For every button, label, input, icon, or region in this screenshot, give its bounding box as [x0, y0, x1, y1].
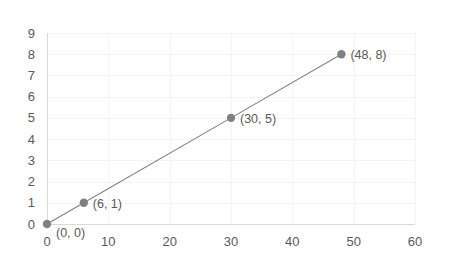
y-tick-label: 1	[28, 195, 35, 210]
y-tick-label: 6	[28, 89, 35, 104]
y-tick-label: 9	[28, 26, 35, 41]
data-point-marker	[337, 50, 345, 58]
data-point-label: (30, 5)	[240, 112, 276, 126]
data-point-label: (0, 0)	[56, 226, 85, 240]
x-tick-label: 0	[43, 234, 50, 249]
x-tick-label: 20	[162, 234, 176, 249]
x-tick-label: 30	[224, 234, 238, 249]
y-tick-label: 7	[28, 68, 35, 83]
data-point-marker	[80, 199, 88, 207]
x-tick-label: 10	[101, 234, 115, 249]
x-tick-label: 40	[285, 234, 299, 249]
y-tick-label: 3	[28, 153, 35, 168]
y-tick-label: 8	[28, 47, 35, 62]
y-tick-label: 0	[28, 217, 35, 232]
data-point-marker	[43, 220, 51, 228]
data-point-label: (6, 1)	[93, 197, 122, 211]
y-tick-label: 4	[28, 132, 35, 147]
chart-canvas: 0123456789 0102030405060 (0, 0)(6, 1)(30…	[0, 0, 457, 277]
y-tick-label: 5	[28, 110, 35, 125]
x-tick-label: 60	[408, 234, 422, 249]
line-chart: 0123456789 0102030405060 (0, 0)(6, 1)(30…	[0, 0, 457, 277]
data-point-marker	[227, 114, 235, 122]
y-tick-label: 2	[28, 174, 35, 189]
data-point-label: (48, 8)	[350, 48, 386, 62]
x-tick-label: 50	[346, 234, 360, 249]
